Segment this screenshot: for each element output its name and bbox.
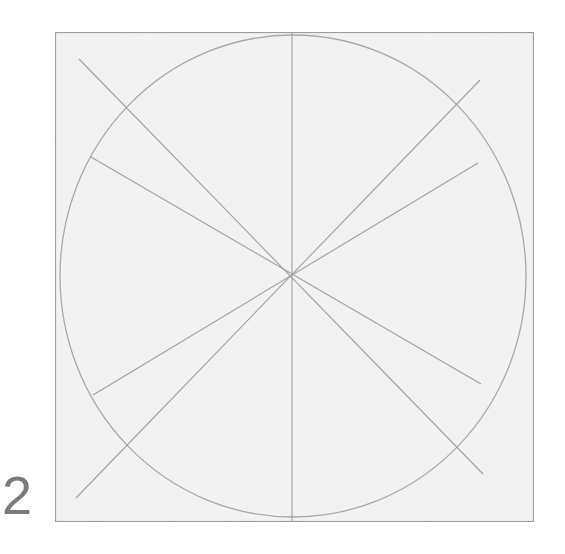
circle-guide-drawing	[0, 0, 565, 554]
